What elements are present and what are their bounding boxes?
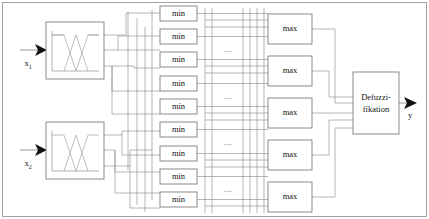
min-block-label: min [172, 54, 186, 64]
min-block-label: min [172, 124, 186, 134]
max-block-label: max [283, 65, 298, 75]
max-block-label: max [283, 23, 298, 33]
min-block[interactable]: min [160, 122, 197, 137]
min-block-label: min [172, 101, 186, 111]
crossbar-vertical-bus [205, 8, 264, 213]
max-block[interactable]: max [268, 140, 312, 170]
max-block[interactable]: max [268, 14, 312, 44]
max-block-label: max [283, 149, 298, 159]
min-block[interactable]: min [160, 169, 197, 184]
ellipsis-marker: ... [224, 92, 232, 101]
min-block-label: min [172, 148, 186, 158]
min-block[interactable]: min [160, 192, 197, 207]
ellipsis-marker: ... [224, 185, 232, 194]
input-arrow-x1 [20, 44, 47, 56]
routing-left-x1 [104, 13, 160, 114]
crossbar-horizontal-rails [197, 14, 268, 214]
min-block[interactable]: min [160, 99, 197, 114]
min-block-label: min [172, 194, 186, 204]
max-block-group: max max max max max [268, 14, 312, 212]
min-block[interactable]: min [160, 29, 197, 44]
fuzzy-controller-diagram: x1 x2 [0, 0, 429, 219]
min-block-label: min [172, 31, 186, 41]
defuzzification-label-line1: Defuzzi- [361, 92, 391, 102]
output-y-label: y [408, 110, 413, 120]
defuzzification-block[interactable]: Defuzzi- fikation [353, 72, 399, 134]
routing-max-to-defuzzification [312, 29, 353, 197]
diagram-canvas: x1 x2 [0, 0, 429, 219]
routing-left-x2 [104, 131, 160, 208]
min-block-label: min [172, 171, 186, 181]
min-block-label: min [172, 78, 186, 88]
input-x1-label: x1 [24, 58, 31, 70]
max-block[interactable]: max [268, 98, 312, 128]
min-block-group: min min min min min min [160, 6, 197, 207]
min-block[interactable]: min [160, 146, 197, 161]
ellipsis-marker: ... [224, 138, 232, 147]
max-block[interactable]: max [268, 56, 312, 86]
ellipsis-marker: ... [224, 45, 232, 54]
fuzzification-block-x2[interactable] [46, 122, 104, 179]
min-block[interactable]: min [160, 76, 197, 91]
input-arrow-x2 [20, 144, 47, 156]
min-block[interactable]: min [160, 52, 197, 67]
min-block-label: min [172, 8, 186, 18]
fuzzification-block-x1[interactable] [46, 22, 104, 79]
defuzzification-label-line2: fikation [363, 104, 390, 114]
max-block-label: max [283, 107, 298, 117]
max-block[interactable]: max [268, 182, 312, 212]
max-block-label: max [283, 191, 298, 201]
min-block[interactable]: min [160, 6, 197, 21]
routing-vertical-bus-left [128, 10, 152, 212]
output-arrow-y [399, 97, 417, 109]
input-x2-label: x2 [24, 158, 31, 170]
